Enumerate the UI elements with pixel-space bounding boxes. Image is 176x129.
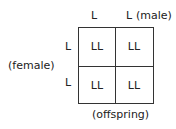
- cell-1-1: LL: [79, 28, 115, 65]
- cell-1-2: LL: [116, 28, 152, 65]
- male-allele-2: L: [126, 10, 132, 22]
- offspring-label: (offspring): [92, 109, 149, 121]
- cell-2-1: LL: [79, 67, 115, 104]
- female-allele-1: L: [65, 41, 71, 53]
- female-label: (female): [8, 60, 55, 72]
- male-allele-1: L: [91, 10, 97, 22]
- female-allele-2: L: [65, 77, 71, 89]
- cell-2-2: LL: [116, 67, 152, 104]
- punnett-grid: LL LL LL LL: [78, 27, 154, 104]
- male-label: (male): [136, 10, 172, 22]
